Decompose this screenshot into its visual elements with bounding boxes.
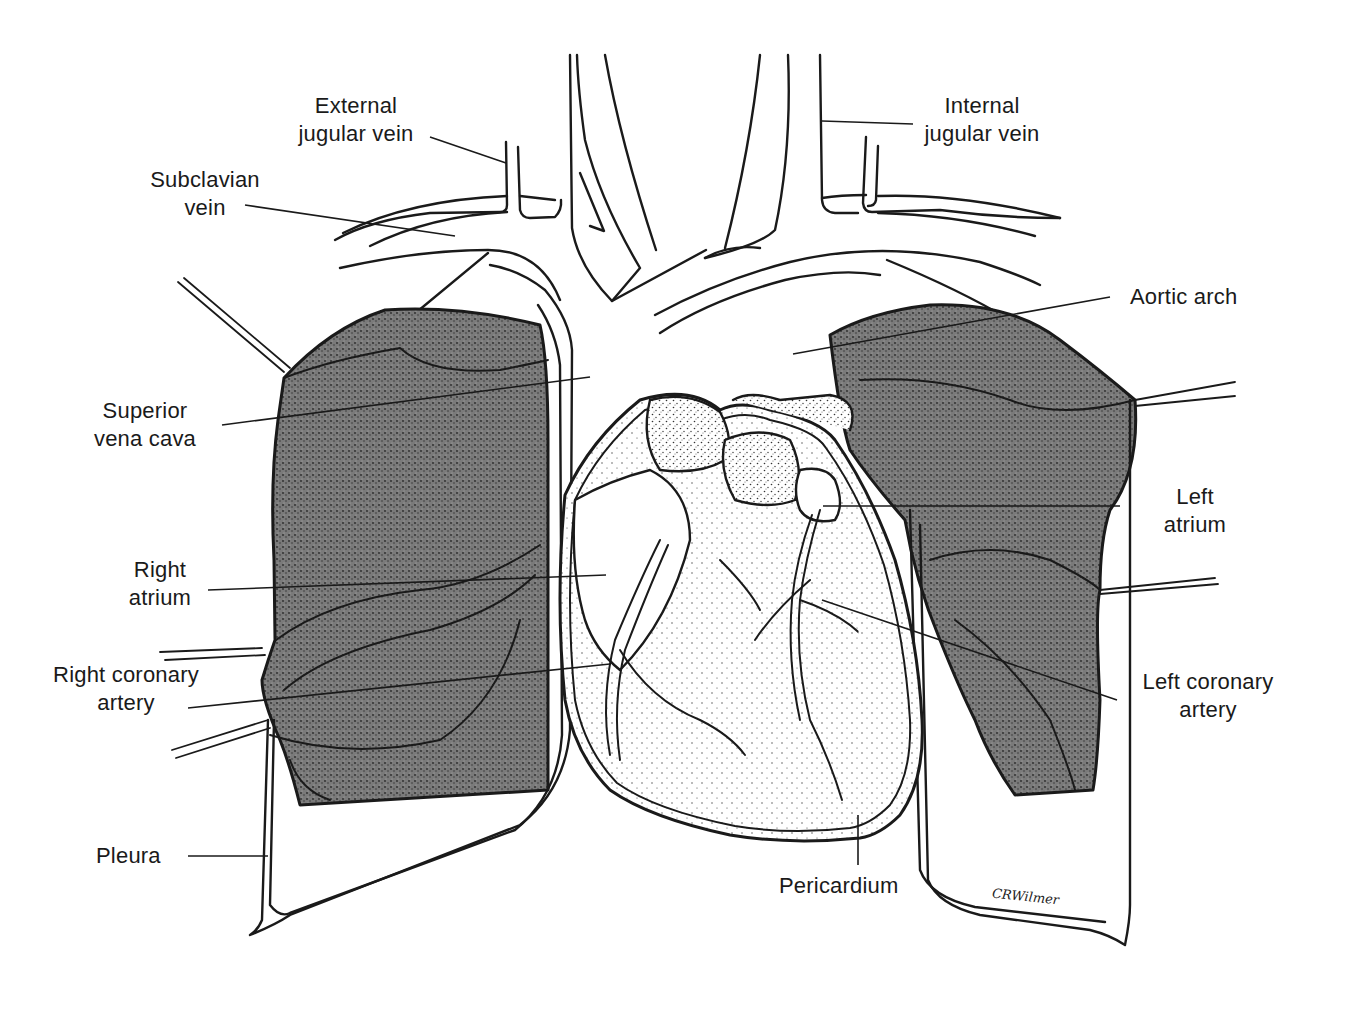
right-lung: [262, 309, 548, 805]
aorta-root: [723, 433, 799, 506]
label-pericardium: Pericardium: [779, 872, 899, 900]
left-common-carotid: [570, 55, 640, 301]
anatomy-illustration: [0, 0, 1345, 1015]
label-right-atrium: Right atrium: [115, 556, 205, 612]
label-left-atrium: Left atrium: [1150, 483, 1240, 539]
label-left-coronary-artery: Left coronary artery: [1127, 668, 1289, 724]
label-subclavian-vein: Subclavian vein: [145, 166, 265, 222]
left-external-jugular-vein: [335, 142, 561, 240]
leader-external-jugular: [430, 137, 506, 163]
label-superior-vena-cava: Superior vena cava: [80, 397, 210, 453]
label-internal-jugular-vein: Internal jugular vein: [912, 92, 1052, 148]
label-right-coronary-artery: Right coronary artery: [46, 661, 206, 717]
brachiocephalic-vein: [340, 250, 560, 300]
aortic-arch-upper: [612, 250, 706, 301]
label-pleura: Pleura: [96, 842, 161, 870]
label-external-jugular-vein: External jugular vein: [286, 92, 426, 148]
label-aortic-arch: Aortic arch: [1130, 283, 1237, 311]
leader-internal-jugular: [822, 121, 913, 124]
left-subclavian-vein-lower: [370, 212, 507, 246]
